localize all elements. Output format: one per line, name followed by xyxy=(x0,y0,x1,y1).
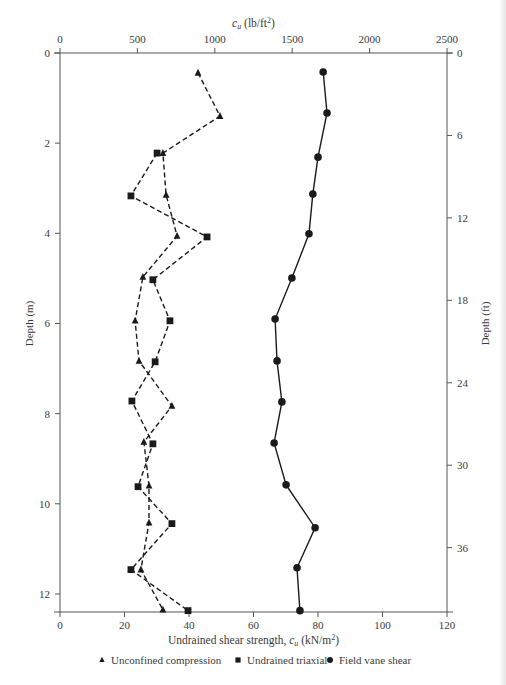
circle-marker xyxy=(293,564,301,572)
y2-tick-label: 36 xyxy=(457,542,469,554)
series-undrained-triaxial xyxy=(128,150,211,614)
square-marker xyxy=(167,317,174,324)
x-tick-label: 20 xyxy=(119,619,131,631)
legend-label: Undrained triaxial xyxy=(247,654,327,666)
y2-tick-label: 6 xyxy=(457,129,463,141)
y2-tick-label: 18 xyxy=(457,294,469,306)
circle-marker xyxy=(296,607,304,615)
x-tick-label: 120 xyxy=(439,619,456,631)
circle-marker xyxy=(314,153,322,161)
triangle-marker xyxy=(146,482,153,489)
series-line xyxy=(131,153,207,610)
axes xyxy=(54,48,453,617)
legend-item: Field vane shear xyxy=(327,654,411,666)
triangle-marker xyxy=(169,402,176,409)
y-tick-label: 8 xyxy=(45,408,51,420)
square-marker xyxy=(169,520,176,527)
circle-marker xyxy=(327,657,333,663)
triangle-marker xyxy=(138,566,145,573)
x-tick-label: 60 xyxy=(248,619,260,631)
y-tick-label: 12 xyxy=(39,588,50,600)
x2-tick-label: 2500 xyxy=(436,33,459,45)
circle-marker xyxy=(311,524,319,532)
triangle-marker xyxy=(132,317,139,324)
x-tick-label: 40 xyxy=(184,619,196,631)
circle-marker xyxy=(278,398,286,406)
x-tick-label: 80 xyxy=(313,619,325,631)
page-edge-shade xyxy=(499,0,506,685)
triangle-marker xyxy=(217,112,224,119)
series-line xyxy=(135,73,220,610)
circle-marker xyxy=(270,439,278,447)
circle-marker xyxy=(282,481,290,489)
y-tick-label: 6 xyxy=(45,317,51,329)
x2-tick-label: 1500 xyxy=(281,33,304,45)
x-tick-label: 100 xyxy=(374,619,391,631)
square-marker xyxy=(154,150,161,157)
x-tick-label: 0 xyxy=(57,619,63,631)
y2-tick-label: 0 xyxy=(457,47,463,59)
circle-marker xyxy=(323,109,331,117)
square-marker xyxy=(149,440,156,447)
y-tick-label: 4 xyxy=(45,227,51,239)
y-tick-label: 10 xyxy=(39,498,51,510)
series-line xyxy=(274,72,327,611)
y2-tick-label: 24 xyxy=(457,377,469,389)
x2-tick-label: 500 xyxy=(129,33,146,45)
x2-axis-title: cu (lb/ft2) xyxy=(232,16,275,31)
triangle-marker xyxy=(195,69,202,76)
square-marker xyxy=(128,566,135,573)
square-marker xyxy=(204,234,211,241)
triangle-marker xyxy=(146,519,153,526)
x-axis-title: Undrained shear strength, cu (kN/m2) xyxy=(168,633,339,648)
legend-label: Unconfined compression xyxy=(111,654,222,666)
x2-tick-label: 2000 xyxy=(359,33,382,45)
y2-tick-label: 30 xyxy=(457,459,469,471)
triangle-marker xyxy=(159,149,166,156)
y-axis-title: Depth (m) xyxy=(23,300,36,346)
x2-tick-label: 1000 xyxy=(204,33,227,45)
y-tick-label: 2 xyxy=(45,137,51,149)
legend-item: Unconfined compression xyxy=(99,654,221,666)
plot-series xyxy=(128,68,331,614)
axis-labels: 0204060801001200500100015002000250002468… xyxy=(23,16,492,648)
square-marker xyxy=(149,276,156,283)
triangle-marker xyxy=(163,191,170,198)
y2-tick-label: 12 xyxy=(457,212,468,224)
circle-marker xyxy=(305,230,313,238)
triangle-marker xyxy=(99,657,104,662)
square-marker xyxy=(152,358,159,365)
circle-marker xyxy=(309,190,317,198)
circle-marker xyxy=(271,315,279,323)
circle-marker xyxy=(273,357,281,365)
x2-tick-label: 0 xyxy=(57,33,63,45)
legend-item: Undrained triaxial xyxy=(235,654,327,666)
legend-label: Field vane shear xyxy=(339,654,411,666)
y2-axis-title: Depth (ft) xyxy=(479,301,492,345)
depth-strength-chart: 0204060801001200500100015002000250002468… xyxy=(0,0,506,685)
circle-marker xyxy=(319,68,327,76)
legend: Unconfined compressionUndrained triaxial… xyxy=(99,654,411,666)
triangle-marker xyxy=(136,357,143,364)
square-marker xyxy=(129,398,136,405)
square-marker xyxy=(185,607,192,614)
circle-marker xyxy=(288,274,296,282)
square-marker xyxy=(135,483,142,490)
series-field-vane-shear xyxy=(270,68,330,614)
square-marker xyxy=(235,657,240,662)
series-unconfined-compression xyxy=(132,69,224,613)
square-marker xyxy=(128,193,135,200)
triangle-marker xyxy=(174,232,181,239)
y-tick-label: 0 xyxy=(45,47,51,59)
